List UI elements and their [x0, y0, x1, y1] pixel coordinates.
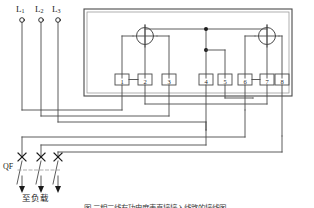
terminal-label-5: 5 — [223, 78, 226, 85]
phase-label-L2: L2 — [35, 5, 44, 14]
breaker-label-QF: QF — [3, 163, 13, 171]
terminal-label-7: 7 — [265, 78, 269, 85]
junction-dot-top-bus — [204, 27, 208, 31]
wiring-diagram-figure: 1 2 3 4 5 6 7 8 L1 L2 L3 QF 至负载 图 三相三线有功… — [0, 0, 314, 208]
terminal-label-8: 8 — [280, 78, 283, 85]
figure-caption: 图 三相三线有功电度表直接接入线路的接线图 — [84, 202, 226, 208]
terminal-label-1: 1 — [120, 78, 123, 85]
qf-out1-arrow — [19, 186, 25, 193]
qf-pole3-blade — [53, 161, 58, 184]
phase-label-L1: L1 — [16, 5, 25, 14]
qf-out3-arrow — [55, 186, 61, 193]
terminal-label-6: 6 — [243, 78, 247, 85]
circuit-diagram-canvas: 1 2 3 4 5 6 7 8 — [0, 0, 314, 208]
qf-out2-arrow — [38, 186, 44, 193]
terminal-number-labels: 1 2 3 4 5 6 7 8 — [120, 78, 283, 85]
qf-pole1-blade — [17, 161, 22, 184]
supply-terminal-L1[interactable] — [20, 18, 25, 23]
terminal-label-2: 2 — [143, 78, 146, 85]
meter-enclosure-inner — [87, 12, 289, 93]
supply-terminal-L3[interactable] — [56, 18, 61, 23]
terminal-block — [115, 74, 289, 85]
qf-pole2-blade — [36, 161, 41, 184]
terminal-label-4: 4 — [204, 78, 208, 85]
load-label: 至负载 — [22, 194, 49, 203]
supply-terminal-L2[interactable] — [39, 18, 44, 23]
phase-label-L3: L3 — [52, 5, 61, 14]
circuit-breaker-QF[interactable] — [17, 153, 62, 193]
terminal-label-3: 3 — [167, 78, 170, 85]
